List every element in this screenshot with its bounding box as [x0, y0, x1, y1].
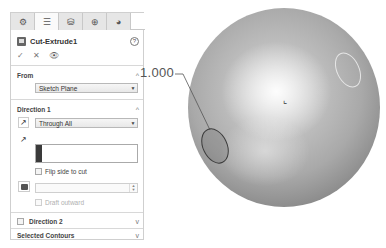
- selection-color-bar: [36, 145, 42, 162]
- draft-angle-input[interactable]: ▲▼: [35, 183, 138, 193]
- flip-side-checkbox[interactable]: Flip side to cut: [35, 168, 87, 175]
- cancel-button[interactable]: ✕: [33, 51, 40, 60]
- feature-title-row: Cut-Extrude1 ?: [17, 35, 139, 47]
- property-manager-panel: ⚙ ☰ ⛁ ⊕ ◕ Cut-Extrude1 ? ✓ ✕ 👁 From ^ Sk…: [10, 12, 144, 240]
- reverse-direction-icon: ↗: [20, 118, 27, 127]
- direction-vector-icon: ↗: [20, 135, 27, 144]
- checkbox-box[interactable]: [35, 199, 42, 206]
- from-group-header[interactable]: From ^: [17, 70, 139, 80]
- direction2-label: Direction 2: [29, 218, 63, 225]
- dimxpert-tab[interactable]: ⊕: [83, 13, 107, 30]
- draft-outward-label: Draft outward: [45, 199, 84, 206]
- graphics-area[interactable]: 1.000: [150, 0, 386, 248]
- flip-side-label: Flip side to cut: [45, 168, 87, 175]
- end-condition-select[interactable]: Through All ▼: [35, 118, 138, 128]
- configuration-manager-tab[interactable]: ⛁: [59, 13, 83, 30]
- feature-manager-tab[interactable]: ⚙: [11, 13, 35, 30]
- ok-button[interactable]: ✓: [17, 51, 24, 60]
- direction2-checkbox[interactable]: Direction 2: [17, 218, 63, 225]
- reverse-direction-button[interactable]: ↗: [18, 117, 29, 128]
- origin-icon: ⌞: [283, 95, 287, 105]
- from-select-value: Sketch Plane: [39, 85, 77, 92]
- divider: [11, 228, 143, 229]
- help-icon[interactable]: ?: [130, 37, 139, 46]
- preview-eye-icon[interactable]: 👁: [49, 51, 59, 60]
- dimxpert-icon: ⊕: [91, 17, 99, 27]
- spin-buttons[interactable]: ▲▼: [129, 184, 137, 192]
- draft-outward-checkbox[interactable]: Draft outward: [35, 199, 84, 206]
- end-condition-value: Through All: [39, 120, 72, 127]
- dropdown-arrow-icon: ▼: [129, 120, 137, 126]
- divider: [11, 212, 143, 213]
- configuration-manager-icon: ⛁: [67, 17, 75, 27]
- chevron-down-icon[interactable]: v: [136, 218, 140, 225]
- action-row: ✓ ✕ 👁: [17, 51, 59, 60]
- display-manager-tab[interactable]: ◕: [107, 13, 131, 30]
- selected-contours-label: Selected Contours: [17, 232, 74, 239]
- dimension-value[interactable]: 1.000: [140, 65, 174, 80]
- direction1-label: Direction 1: [17, 106, 51, 113]
- checkbox-box[interactable]: [17, 218, 24, 225]
- direction2-group-header[interactable]: Direction 2 v: [17, 216, 139, 226]
- draft-toggle-button[interactable]: [18, 181, 30, 192]
- chevron-up-icon[interactable]: ^: [136, 72, 139, 79]
- feature-title: Cut-Extrude1: [30, 37, 130, 46]
- feature-manager-icon: ⚙: [19, 17, 27, 27]
- property-manager-tab[interactable]: ☰: [35, 13, 59, 30]
- chevron-down-icon[interactable]: v: [136, 232, 140, 239]
- direction1-group-header[interactable]: Direction 1 ^: [17, 104, 139, 114]
- divider: [11, 99, 143, 100]
- chevron-up-icon[interactable]: ^: [136, 106, 139, 113]
- display-manager-icon: ◕: [116, 17, 121, 27]
- divider: [11, 65, 143, 66]
- from-label: From: [17, 72, 33, 79]
- cut-extrude-icon: [17, 37, 26, 46]
- checkbox-box[interactable]: [35, 168, 42, 175]
- property-manager-icon: ☰: [43, 17, 51, 27]
- selected-contours-group-header[interactable]: Selected Contours v: [17, 230, 139, 240]
- from-select[interactable]: Sketch Plane ▼: [35, 83, 138, 93]
- dropdown-arrow-icon: ▼: [129, 85, 137, 91]
- manager-tabs: ⚙ ☰ ⛁ ⊕ ◕: [11, 13, 145, 30]
- sphere-model[interactable]: [188, 8, 380, 207]
- direction-of-extrusion-field[interactable]: [35, 144, 138, 163]
